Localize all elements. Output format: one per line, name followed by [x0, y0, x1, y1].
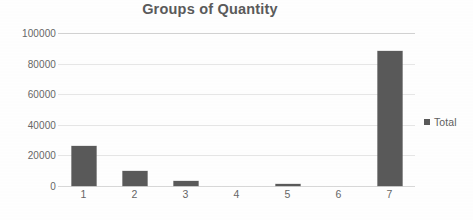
y-axis-tick-label: 100000 [2, 28, 56, 39]
bar[interactable] [377, 51, 402, 186]
bar[interactable] [122, 171, 147, 186]
x-axis-tick-label: 4 [234, 188, 240, 200]
y-axis: 020000400006000080000100000 [0, 33, 56, 186]
y-axis-tick-label: 20000 [2, 150, 56, 161]
bar-slot [313, 33, 364, 186]
bar-slot [160, 33, 211, 186]
bar-chart: Groups of Quantity 020000400006000080000… [0, 0, 473, 220]
y-axis-tick-label: 0 [2, 181, 56, 192]
bar-slot [364, 33, 415, 186]
chart-legend: Total [424, 116, 457, 128]
x-axis-tick-label: 6 [336, 188, 342, 200]
x-axis-tick-label: 7 [387, 188, 393, 200]
bar[interactable] [173, 181, 198, 186]
bar-slot [58, 33, 109, 186]
bar-slot [109, 33, 160, 186]
legend-item-total: Total [434, 116, 457, 128]
y-axis-tick-label: 80000 [2, 58, 56, 69]
x-axis-tick-label: 1 [81, 188, 87, 200]
bar-slot [211, 33, 262, 186]
x-axis: 1234567 [58, 188, 415, 208]
square-marker-icon [424, 119, 430, 125]
y-axis-tick-label: 40000 [2, 119, 56, 130]
bar-slot [262, 33, 313, 186]
bar-series-total [58, 33, 415, 186]
gridline [58, 186, 415, 187]
y-axis-tick-label: 60000 [2, 89, 56, 100]
x-axis-tick-label: 2 [132, 188, 138, 200]
x-axis-tick-label: 5 [285, 188, 291, 200]
bar[interactable] [275, 184, 300, 186]
bar[interactable] [71, 146, 96, 186]
x-axis-tick-label: 3 [183, 188, 189, 200]
chart-title: Groups of Quantity [0, 1, 420, 17]
